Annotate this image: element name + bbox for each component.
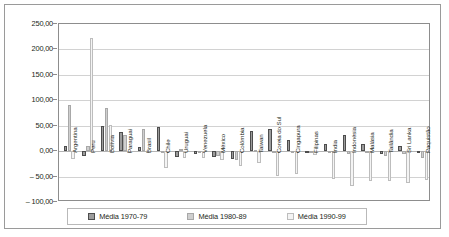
bar <box>313 151 316 155</box>
bar <box>324 144 327 151</box>
bar <box>384 151 387 156</box>
legend-item[interactable]: Média 1990-99 <box>287 212 346 221</box>
bar <box>343 135 346 151</box>
legend-item[interactable]: Média 1970-79 <box>88 212 147 221</box>
y-tick-mark <box>53 150 57 151</box>
y-tick-mark <box>53 23 57 24</box>
chart-legend: Média 1970-79Média 1980-89Média 1990-99 <box>67 208 367 225</box>
bar <box>402 151 405 154</box>
bar <box>146 151 149 153</box>
bar <box>417 151 420 153</box>
y-tick-mark <box>53 201 57 202</box>
y-tick-label: 50,00 <box>36 120 54 129</box>
y-axis: 250,00200,00150,00100,0050,000,00– 50,00… <box>5 23 57 201</box>
bar <box>369 151 372 180</box>
bar <box>250 131 253 151</box>
legend-label: Média 1980-89 <box>198 212 246 221</box>
bar <box>254 150 257 152</box>
bar <box>328 151 331 153</box>
y-tick-label: 150,00 <box>32 69 53 78</box>
legend-swatch-icon <box>287 213 294 220</box>
bar <box>119 132 122 151</box>
bar <box>90 38 93 151</box>
y-tick-label: 100,00 <box>32 95 53 104</box>
legend-item[interactable]: Média 1980-89 <box>187 212 246 221</box>
y-tick-label: 0,00 <box>39 146 53 155</box>
y-tick-mark <box>53 176 57 177</box>
bar-series-container <box>59 24 429 200</box>
bar <box>175 151 178 157</box>
bar <box>287 140 290 151</box>
bar <box>235 151 238 160</box>
bar <box>406 151 409 183</box>
bar <box>216 151 219 156</box>
bar <box>365 151 368 153</box>
legend-label: Média 1970-79 <box>99 212 147 221</box>
bar <box>68 105 71 151</box>
bar <box>291 151 294 153</box>
bar <box>231 151 234 159</box>
bar <box>142 129 145 151</box>
bar <box>220 151 223 160</box>
bar <box>268 129 271 151</box>
bar <box>361 144 364 152</box>
bar <box>276 151 279 175</box>
bar <box>183 151 186 158</box>
y-tick-label: 250,00 <box>32 19 53 28</box>
bar <box>71 151 74 159</box>
bar <box>202 151 205 158</box>
chart-figure: 250,00200,00150,00100,0050,000,00– 50,00… <box>4 4 441 229</box>
bar <box>82 151 85 156</box>
bar <box>138 147 141 151</box>
y-tick-mark <box>53 74 57 75</box>
bar <box>257 151 260 163</box>
y-tick-mark <box>53 48 57 49</box>
legend-swatch-icon <box>88 213 95 220</box>
bar <box>380 151 383 154</box>
legend-label: Média 1990-99 <box>298 212 346 221</box>
bar <box>332 151 335 178</box>
bar <box>272 151 275 153</box>
bar <box>425 151 428 179</box>
y-tick-mark <box>53 99 57 100</box>
y-tick-label: – 50,00 <box>30 171 53 180</box>
bar <box>86 146 89 151</box>
y-tick-mark <box>53 125 57 126</box>
bar <box>421 151 424 158</box>
bar <box>123 135 126 151</box>
bar <box>179 149 182 152</box>
plot-area <box>58 23 430 201</box>
bar <box>164 151 167 168</box>
bar <box>194 151 197 154</box>
bar <box>239 151 242 166</box>
y-tick-label: – 100,00 <box>26 197 53 206</box>
bar <box>309 151 312 153</box>
bar <box>101 126 104 151</box>
bar <box>105 108 108 151</box>
bar <box>157 127 160 151</box>
bar <box>347 151 350 154</box>
bar <box>64 146 67 152</box>
bar <box>212 151 215 157</box>
legend-swatch-icon <box>187 213 194 220</box>
bar <box>398 146 401 152</box>
y-tick-label: 200,00 <box>32 44 53 53</box>
bar <box>350 151 353 186</box>
bar <box>161 151 164 153</box>
bar <box>127 151 130 153</box>
bar <box>109 125 112 151</box>
bar <box>198 151 201 153</box>
bar <box>388 151 391 180</box>
bar <box>295 151 298 173</box>
bar <box>305 151 308 153</box>
